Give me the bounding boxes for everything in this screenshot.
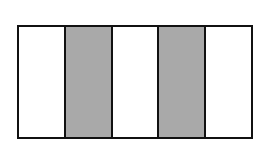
unshaded-part (19, 27, 64, 137)
unshaded-part (111, 27, 158, 137)
shaded-part (157, 27, 204, 137)
unshaded-part (204, 27, 251, 137)
fraction-rectangle (17, 25, 253, 139)
shaded-part (64, 27, 111, 137)
